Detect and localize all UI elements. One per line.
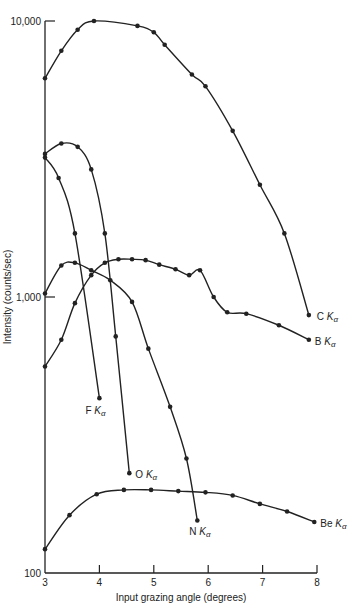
data-point [282,231,287,236]
data-point [307,337,312,342]
curve-label-b: B Kα [315,336,336,349]
data-point [127,471,132,476]
data-point [43,291,48,296]
x-tick-label: 6 [205,577,211,588]
x-axis-label: Input grazing angle (degrees) [116,592,247,603]
data-point [173,267,178,272]
data-point [75,145,80,150]
data-point [244,311,249,316]
data-point [203,490,208,495]
chart-figure: 3456781001,00010,000Input grazing angle … [0,0,350,608]
x-tick-label: 5 [151,577,157,588]
data-point [92,19,97,24]
data-point [103,231,108,236]
data-point [162,42,167,47]
data-point [198,268,203,273]
curve-be [45,490,314,550]
x-tick-label: 7 [260,577,266,588]
x-tick-label: 3 [42,577,48,588]
data-point [122,488,127,493]
data-point [59,48,64,53]
data-point [277,323,282,328]
data-point [67,513,72,518]
data-point [43,76,48,81]
data-point [307,313,312,318]
data-point [157,262,162,267]
data-point [230,493,235,498]
data-point [149,488,154,493]
data-point [116,257,121,262]
data-point [130,257,135,262]
data-point [168,405,173,410]
data-point [285,509,290,514]
data-point [143,258,148,263]
data-point [258,182,263,187]
curve-label-c: C Kα [317,311,339,324]
data-point [59,263,64,268]
data-point [211,295,216,300]
data-point [59,337,64,342]
data-point [146,346,151,351]
data-point [89,268,94,273]
data-point [152,30,157,35]
y-axis-label: Intensity (counts/sec) [2,250,13,344]
data-point [73,231,78,236]
data-point [230,129,235,134]
y-tick-label: 100 [24,568,41,579]
data-point [97,396,102,401]
data-point [184,456,189,461]
curve-label-f: F Kα [85,405,106,418]
data-point [43,364,48,369]
data-point [135,24,140,29]
intensity-plot: 3456781001,00010,000Input grazing angle … [0,0,350,608]
data-point [195,518,200,523]
data-point [75,27,80,32]
data-point [89,167,94,172]
curve-label-o: O Kα [135,469,157,482]
data-point [43,152,48,157]
curve-b [45,259,309,367]
x-tick-label: 8 [314,577,320,588]
data-point [94,492,99,497]
data-point [103,261,108,266]
data-point [59,141,64,146]
axes: 3456781001,00010,000Input grazing angle … [2,16,320,603]
data-point [73,301,78,306]
data-point [113,334,118,339]
curve-label-n: N Kα [189,526,211,539]
curves [43,19,317,552]
y-tick-label: 1,000 [16,292,41,303]
data-point [108,278,113,283]
data-point [258,502,263,507]
data-point [56,176,61,181]
data-point [187,273,192,278]
data-point [73,261,78,266]
data-point [43,547,48,552]
data-point [130,300,135,305]
data-point [89,273,94,278]
data-point [225,310,230,315]
data-point [203,84,208,89]
data-point [312,520,317,525]
x-tick-label: 4 [97,577,103,588]
y-tick-label: 10,000 [10,16,41,27]
curve-label-be: Be Kα [320,518,347,531]
data-point [190,72,195,77]
data-point [176,489,181,494]
